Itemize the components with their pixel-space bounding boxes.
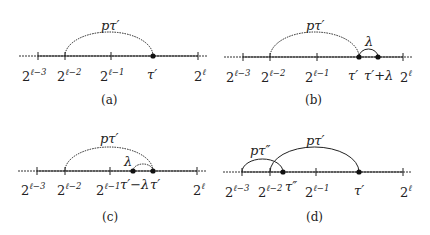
tick-label: 2ℓ−3: [22, 67, 46, 84]
tick-label: 2ℓ−2: [258, 183, 282, 200]
tick-label: 2ℓ: [194, 67, 206, 84]
arc-label-lambda: λ: [123, 154, 132, 169]
arc-ptau: [270, 32, 359, 57]
point-tau-prime: [150, 168, 155, 173]
point-tau-prime: [356, 169, 361, 174]
arc-lambda: [359, 49, 378, 57]
tick-label: 2ℓ−1: [305, 183, 329, 200]
arc-label: pτ″: [250, 143, 271, 158]
figure-canvas: pτ′ 2ℓ−3 2ℓ−2 2ℓ−1 τ′ 2ℓ (a) pτ′ λ 2ℓ−3 …: [0, 0, 430, 235]
tick-label: 2ℓ−2: [57, 67, 81, 84]
point-tau-prime: [150, 53, 155, 58]
point-label: τ″: [285, 179, 297, 194]
tick-label: 2ℓ−2: [261, 68, 285, 85]
point-tau-prime-plus-lambda: [375, 54, 380, 59]
point-label: τ′−λ: [120, 177, 149, 192]
arc-ptau-double-prime: [242, 159, 283, 172]
tick-label: 2ℓ−3: [226, 68, 250, 85]
arc-ptau: [65, 32, 153, 56]
point-label: τ′: [150, 177, 160, 192]
point-label: τ′: [354, 183, 364, 198]
arc-lambda: [133, 164, 153, 171]
arc-label-lambda: λ: [364, 34, 373, 49]
tick-label: 2ℓ: [400, 183, 412, 200]
panel-d: pτ″ pτ′ 2ℓ−3 2ℓ−2 τ″ 2ℓ−1 τ′ 2ℓ (d): [223, 133, 412, 224]
panel-c: pτ′ λ 2ℓ−3 2ℓ−2 2ℓ−1 τ′−λ τ′ 2ℓ (c): [18, 131, 207, 224]
panel-caption: (b): [305, 93, 322, 107]
tick-label: 2ℓ−3: [225, 183, 249, 200]
panel-b: pτ′ λ 2ℓ−3 2ℓ−2 2ℓ−1 τ′ τ′+λ 2ℓ (b): [224, 18, 413, 107]
point-label: τ′: [147, 67, 157, 82]
arc-ptau: [65, 147, 153, 171]
arc-label: pτ′: [306, 18, 325, 33]
tick-label: 2ℓ: [400, 68, 412, 85]
arc-label: pτ′: [100, 131, 119, 146]
tick-label: 2ℓ−1: [96, 181, 120, 198]
panel-caption: (a): [101, 93, 118, 107]
panel-caption: (c): [102, 210, 118, 224]
point-tau-double-prime: [280, 169, 285, 174]
point-tau-prime: [356, 54, 361, 59]
tick-label: 2ℓ−1: [100, 67, 124, 84]
panel-a: pτ′ 2ℓ−3 2ℓ−2 2ℓ−1 τ′ 2ℓ (a): [19, 18, 208, 107]
arc-label: pτ′: [306, 133, 325, 148]
tick-label: 2ℓ−2: [57, 181, 81, 198]
panel-caption: (d): [306, 210, 323, 224]
tick-label: 2ℓ−3: [21, 181, 45, 198]
tick-label: 2ℓ: [193, 181, 205, 198]
point-tau-prime-minus-lambda: [130, 168, 135, 173]
point-label: τ′: [348, 68, 358, 83]
arc-ptau-prime: [270, 147, 359, 172]
point-label: τ′+λ: [364, 68, 393, 83]
tick-label: 2ℓ−1: [305, 68, 329, 85]
arc-label: pτ′: [101, 18, 120, 33]
